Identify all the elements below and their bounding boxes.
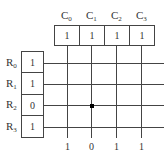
- row-label-r2: R2: [6, 99, 17, 114]
- column-line-c3: [141, 46, 142, 138]
- row-label-r3: R3: [6, 121, 17, 136]
- row-line-r0: [44, 63, 164, 64]
- row-label-r0: R0: [6, 57, 17, 72]
- column-output-c2: 1: [114, 142, 119, 152]
- column-label-c1: C1: [86, 10, 97, 25]
- column-label-c2: C2: [111, 10, 122, 25]
- column-line-c0: [67, 46, 68, 138]
- column-register-c2: 1: [104, 25, 130, 46]
- row-line-r1: [44, 84, 164, 85]
- row-line-r2: [44, 105, 164, 106]
- row-label-r1: R1: [6, 78, 17, 93]
- row-register-r2: 0: [21, 94, 44, 116]
- selected-intersection-dot: [90, 104, 94, 108]
- column-register-c1: 1: [79, 25, 105, 46]
- column-output-c1: 0: [89, 142, 94, 152]
- column-register-c0: 1: [54, 25, 80, 46]
- column-line-c1: [91, 46, 92, 138]
- column-label-c3: C3: [136, 10, 147, 25]
- row-register-r3: 1: [21, 115, 44, 138]
- column-line-c2: [116, 46, 117, 138]
- column-output-c0: 1: [65, 142, 70, 152]
- column-output-c3: 1: [139, 142, 144, 152]
- column-register-c3: 1: [129, 25, 155, 46]
- row-register-r1: 1: [21, 72, 44, 95]
- column-label-c0: C0: [61, 10, 72, 25]
- row-register-r0: 1: [21, 51, 44, 73]
- row-line-r3: [44, 127, 164, 128]
